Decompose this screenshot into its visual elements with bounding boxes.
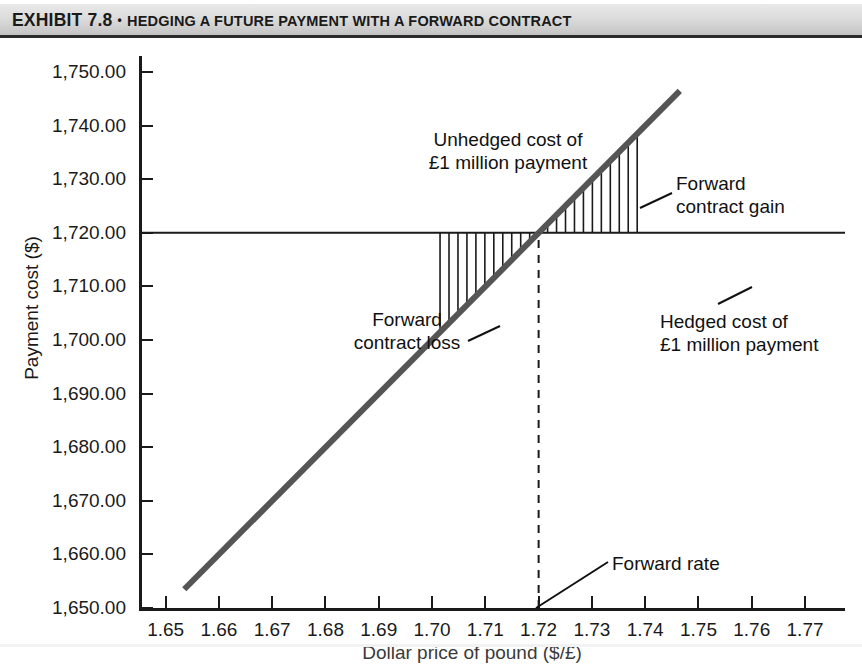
gain-leader-line [640,193,672,208]
annotation-hedged-line2: £1 million payment [660,333,818,356]
annotation-unhedged-cost: Unhedged cost of £1 million payment [392,128,624,174]
annotation-unhedged-line2: £1 million payment [392,151,624,174]
annotation-gain-line2: contract gain [676,195,785,218]
annotation-hedged-cost: Hedged cost of £1 million payment [660,310,818,356]
exhibit-title: EXHIBIT 7.8 • HEDGING A FUTURE PAYMENT W… [12,10,572,31]
annotation-loss-line1: Forward [318,308,496,331]
annotation-forward-rate: Forward rate [612,552,720,575]
annotation-hedged-line1: Hedged cost of [660,310,818,333]
forward-rate-leader-line [536,562,608,608]
exhibit-title-text: HEDGING A FUTURE PAYMENT WITH A FORWARD … [127,13,572,29]
bullet-separator-icon: • [118,13,122,27]
annotation-forward-contract-gain: Forward contract gain [676,172,785,218]
chart-area: 1,650.001,660.001,670.001,680.001,690.00… [0,42,862,647]
annotation-gain-line1: Forward [676,172,785,195]
exhibit-title-bar: EXHIBIT 7.8 • HEDGING A FUTURE PAYMENT W… [0,4,862,38]
annotation-unhedged-line1: Unhedged cost of [392,128,624,151]
annotation-forward-rate-text: Forward rate [612,552,720,575]
annotation-forward-contract-loss: Forward contract loss [318,308,496,354]
exhibit-number: EXHIBIT 7.8 [12,10,112,30]
hedged-leader-line [718,287,752,304]
page-bottom-edge [0,644,862,647]
annotation-loss-line2: contract loss [318,331,496,354]
